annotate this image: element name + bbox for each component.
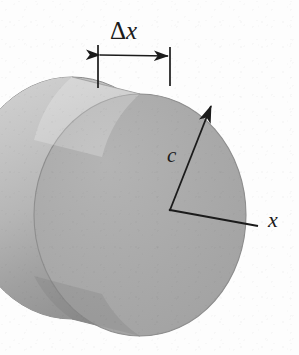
figure-container: Δx c x [0,0,299,355]
radius-c-label: c [167,145,176,166]
delta-x-label: Δx [110,18,137,43]
axis-origin-vertex [169,209,172,212]
disc-solid [0,77,246,336]
disc-figure-svg [0,0,299,355]
dimension-arrow-double-headed [100,55,168,56]
delta-glyph: Δ [110,17,126,44]
delta-x-dimension-group [98,45,170,88]
x-axis-label: x [268,209,278,231]
delta-x-variable: x [126,17,137,44]
